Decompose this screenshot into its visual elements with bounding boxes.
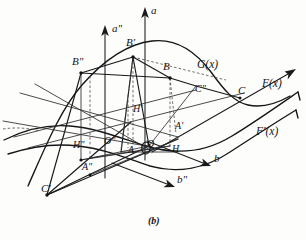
axis-b2-line — [112, 163, 175, 187]
segment-B1-to-O — [133, 57, 149, 146]
curve-group — [3, 41, 300, 186]
point-label-A: A — [128, 145, 134, 155]
point-label-H-prime: H' — [133, 104, 142, 114]
dot-A2 — [89, 174, 92, 177]
point-label-H: H — [172, 144, 179, 154]
curve-label-F-prime-of-x: F'(x) — [256, 126, 278, 138]
segment-B-to-B2-base — [81, 73, 170, 78]
point-label-A-double-prime: A" — [82, 162, 92, 172]
segment-B-to-C2 — [170, 78, 196, 86]
axis-label-b: b — [214, 153, 220, 164]
curve-G-of-x — [28, 41, 290, 186]
figure-caption: (b) — [148, 216, 160, 226]
dot-B — [168, 76, 171, 79]
curve-label-F-of-x: F(x) — [262, 78, 282, 90]
dot-B2 — [79, 71, 82, 74]
axis-label-a: a — [151, 5, 157, 16]
curve-Fprime-end-hook — [296, 110, 298, 118]
axis-label-b-double-prime: b" — [177, 174, 187, 185]
point-label-O-double-prime: O" — [104, 136, 115, 146]
point-label-C-prime: C' — [41, 183, 51, 194]
projection-line-4 — [35, 84, 150, 150]
point-label-O: O — [147, 139, 154, 149]
point-label-A-prime: A' — [175, 121, 183, 131]
curve-label-G-of-x: G(x) — [197, 59, 218, 71]
figure-drawing-canvas — [0, 0, 306, 240]
point-label-C-double-prime: C" — [195, 84, 206, 94]
geometry-figure: a a" b b" B" B' B H' A' H" O" A O H A" C… — [0, 0, 306, 240]
projection-line-5 — [20, 93, 178, 137]
segment-O-to-C2 — [149, 86, 196, 146]
dot-C — [239, 97, 242, 100]
projection-line-3 — [28, 93, 244, 148]
construction-group — [3, 55, 244, 196]
segment-B2-to-B1 — [81, 57, 133, 73]
point-label-B-double-prime: B" — [72, 56, 83, 67]
axis-label-a-double-prime: a" — [112, 23, 122, 34]
curve-F-end-hook — [298, 92, 300, 100]
point-label-H-double-prime: H" — [73, 140, 84, 150]
point-label-C: C — [238, 85, 245, 96]
point-label-B-prime: B' — [126, 37, 135, 48]
axis-group — [101, 7, 296, 187]
dot-B1 — [131, 55, 134, 58]
point-label-B: B — [163, 61, 170, 72]
